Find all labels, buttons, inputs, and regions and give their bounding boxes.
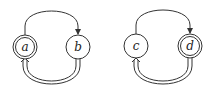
node-d-label: d <box>186 39 194 53</box>
state-diagram: a b c d <box>0 0 224 92</box>
node-b-label: b <box>74 40 82 54</box>
edge-b-to-a-outer <box>23 59 80 84</box>
node-d: d <box>178 34 202 58</box>
node-a-label: a <box>21 40 28 54</box>
diagram-right: c d <box>124 10 202 84</box>
node-c-label: c <box>133 39 140 53</box>
edge-d-to-c-inner <box>138 58 188 81</box>
edge-d-to-c-outer <box>134 58 192 84</box>
edge-c-to-d <box>136 10 190 34</box>
node-a: a <box>13 35 37 59</box>
node-c: c <box>124 34 148 58</box>
edge-b-to-a-inner <box>27 59 76 81</box>
node-b: b <box>66 35 90 59</box>
edge-a-to-b <box>25 11 78 35</box>
diagram-left: a b <box>13 11 90 84</box>
double-arrowhead-c <box>132 58 140 62</box>
